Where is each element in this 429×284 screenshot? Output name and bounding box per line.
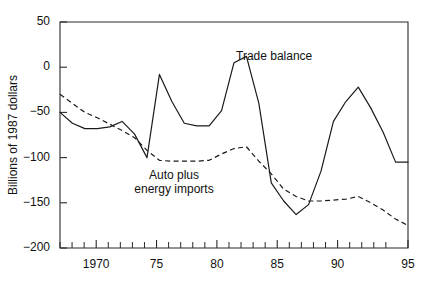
y-tick-label-m100: −100 [23, 150, 50, 164]
y-tick-label-0: 0 [43, 59, 50, 73]
series-auto-plus-energy-imports [60, 94, 408, 225]
y-tick-label-50: 50 [37, 14, 51, 28]
y-tick-label-m50: −50 [30, 104, 51, 118]
x-tick-label-1970: 1970 [83, 257, 110, 271]
y-tick-label-m150: −150 [23, 195, 50, 209]
x-tick-label-85: 85 [271, 257, 285, 271]
x-tick-label-90: 90 [331, 257, 345, 271]
y-tick-label-m200: −200 [23, 240, 50, 254]
x-tick-label-95: 95 [401, 257, 415, 271]
y-axis-ticks [60, 22, 67, 248]
chart-figure: Billions of 1987 dollars 50 0 −50 −100 −… [0, 0, 429, 284]
annotation-trade-balance: Trade balance [236, 49, 313, 63]
axis-frame [60, 22, 408, 248]
series-trade-balance [60, 56, 408, 214]
x-axis-ticks [60, 240, 408, 248]
line-chart-svg: Billions of 1987 dollars 50 0 −50 −100 −… [0, 0, 429, 284]
x-tick-label-75: 75 [150, 257, 164, 271]
y-axis-label: Billions of 1987 dollars [6, 75, 20, 195]
x-tick-label-80: 80 [210, 257, 224, 271]
annotation-auto-line2: energy imports [134, 182, 213, 196]
annotation-auto-line1: Auto plus [149, 168, 199, 182]
